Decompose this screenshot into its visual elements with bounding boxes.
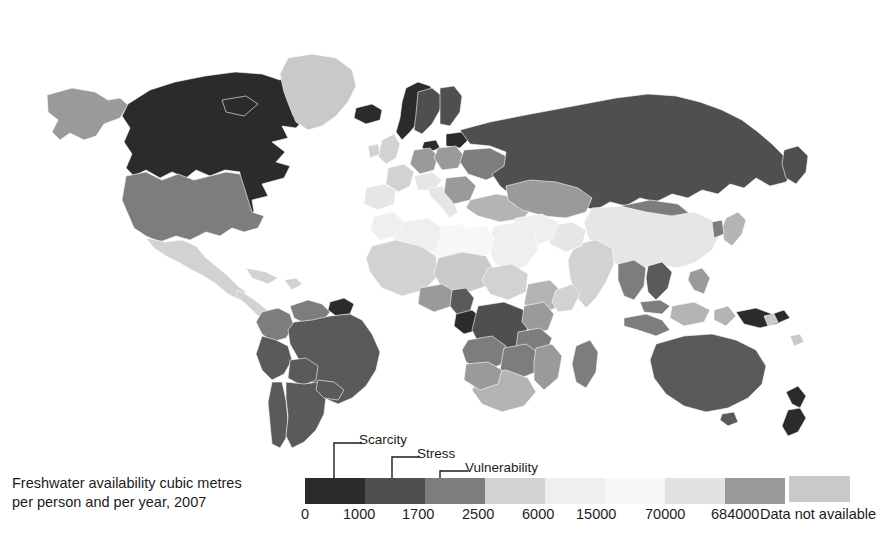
country-united-states (122, 172, 264, 242)
legend-color-bar (305, 478, 785, 504)
legend-swatch-1000-1700 (365, 478, 425, 504)
legend-scale: Scarcity Stress Vulnerability (305, 432, 859, 557)
callout-vulnerability-label: Vulnerability (465, 460, 538, 475)
callout-scarcity: Scarcity (333, 440, 363, 480)
legend-tick-2500: 2500 (462, 506, 494, 522)
map-legend: Freshwater availability cubic metres per… (0, 432, 859, 557)
callout-stress: Stress (391, 454, 421, 480)
legend-caption-line-2: per person and per year, 2007 (12, 493, 297, 512)
legend-swatch-2500-6000 (485, 478, 545, 504)
legend-swatch-70000-684000 (665, 478, 725, 504)
legend-no-data-key: Data not available (760, 472, 881, 532)
legend-tick-1700: 1700 (402, 506, 434, 522)
callout-stress-label: Stress (417, 446, 455, 461)
world-map-container (0, 0, 859, 450)
legend-tick-70000: 70000 (645, 506, 685, 522)
legend-swatch-1700-2500 (425, 478, 485, 504)
legend-tick-labels: 0 1000 1700 2500 6000 15000 70000 684000 (305, 506, 825, 528)
legend-caption: Freshwater availability cubic metres per… (12, 474, 297, 512)
legend-tick-0: 0 (301, 506, 309, 522)
legend-tick-1000: 1000 (343, 506, 375, 522)
legend-tick-15000: 15000 (576, 506, 616, 522)
legend-swatch-15000-70000 (605, 478, 665, 504)
legend-swatch-0-1000 (305, 478, 365, 504)
legend-no-data-swatch (789, 476, 850, 502)
legend-tick-6000: 6000 (522, 506, 554, 522)
callout-scarcity-label: Scarcity (359, 432, 407, 447)
legend-tick-684000: 684000 (711, 506, 759, 522)
legend-swatch-6000-15000 (545, 478, 605, 504)
legend-no-data-label: Data not available (760, 506, 876, 522)
legend-callouts: Scarcity Stress Vulnerability (305, 432, 705, 478)
legend-caption-line-1: Freshwater availability cubic metres (12, 474, 297, 493)
world-map (0, 0, 859, 450)
